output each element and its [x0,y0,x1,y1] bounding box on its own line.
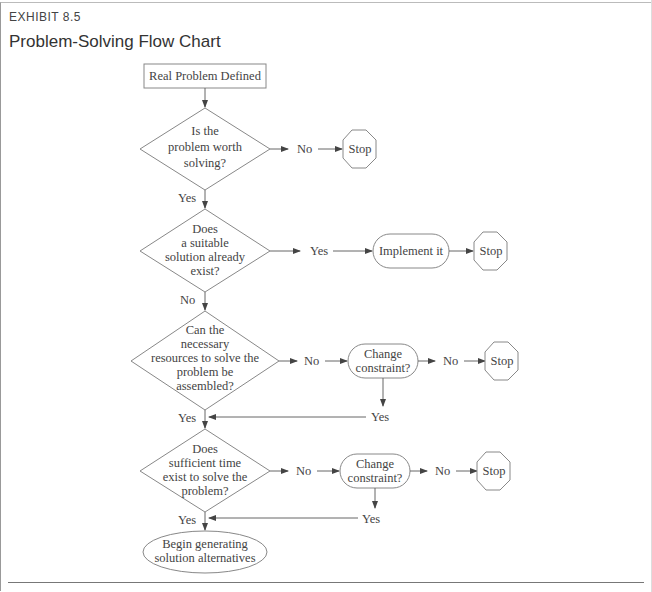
bottom-rule [8,582,644,583]
end-ellipse: Begin generating solution alternatives [143,531,267,573]
start-box: Real Problem Defined [144,64,266,88]
stop-octagon: Stop [485,342,518,380]
no-label: No [180,293,195,307]
stop-octagon: Stop [477,452,510,490]
svg-text:constraint?: constraint? [356,361,411,375]
svg-text:a suitable: a suitable [181,236,229,250]
yes-label: Yes [178,513,196,527]
svg-text:Is the: Is the [191,124,219,138]
change-constraint-box: Change constraint? [340,454,410,488]
svg-text:Does: Does [192,442,218,456]
change-constraint-box: Change constraint? [348,344,418,378]
yes-label: Yes [371,410,389,424]
svg-text:Stop: Stop [483,464,506,478]
decision-worth-solving: Is the problem worth solving? [140,108,270,190]
implement-box: Implement it [373,234,449,268]
svg-text:Stop: Stop [491,354,514,368]
svg-text:Stop: Stop [349,142,372,156]
no-label: No [297,142,312,156]
svg-text:Real Problem Defined: Real Problem Defined [149,69,262,83]
yes-label: Yes [362,512,380,526]
svg-text:resources to solve the: resources to solve the [151,351,259,365]
svg-text:constraint?: constraint? [348,471,403,485]
svg-text:solving?: solving? [184,156,227,170]
svg-text:Change: Change [364,347,403,361]
svg-text:sufficient time: sufficient time [169,456,242,470]
svg-text:problem be: problem be [177,365,234,379]
svg-text:problem worth: problem worth [168,140,243,154]
yes-label: Yes [178,411,196,425]
svg-text:Implement it: Implement it [379,244,444,258]
no-label: No [435,464,450,478]
svg-text:problem?: problem? [181,484,229,498]
no-label: No [443,354,458,368]
yes-label: Yes [310,244,328,258]
stop-octagon: Stop [474,232,507,270]
svg-text:exist to solve the: exist to solve the [163,470,248,484]
svg-text:Can the: Can the [186,323,225,337]
yes-label: Yes [178,191,196,205]
decision-resources: Can the necessary resources to solve the… [131,311,279,410]
flowchart: Real Problem Defined Is the problem wort… [0,0,652,592]
svg-text:solution already: solution already [165,250,246,264]
svg-text:necessary: necessary [181,337,230,351]
no-label: No [304,354,319,368]
no-label: No [296,464,311,478]
stop-octagon: Stop [343,130,376,168]
svg-text:Change: Change [356,457,395,471]
svg-text:assembled?: assembled? [176,379,234,393]
decision-sufficient-time: Does sufficient time exist to solve the … [140,429,270,512]
svg-text:Begin generating: Begin generating [162,537,248,551]
svg-text:Does: Does [192,222,218,236]
svg-text:exist?: exist? [190,264,220,278]
decision-solution-exists: Does a suitable solution already exist? [140,209,270,292]
svg-text:solution alternatives: solution alternatives [154,551,255,565]
svg-text:Stop: Stop [480,244,503,258]
